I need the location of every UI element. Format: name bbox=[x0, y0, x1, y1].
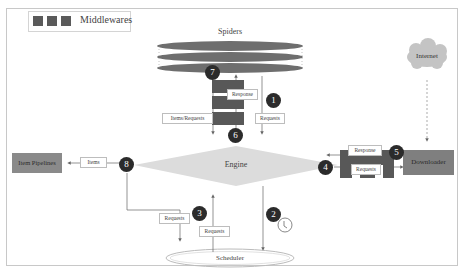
step-badge-6: 6 bbox=[228, 128, 243, 143]
downloader-label: Downloader bbox=[411, 158, 446, 166]
spiders-label: Spiders bbox=[200, 27, 260, 36]
edge-label-requests-dl: Requests bbox=[351, 164, 381, 175]
internet-label: Internet bbox=[407, 52, 447, 60]
spider-middleware-block bbox=[212, 112, 244, 125]
edge-label-requests: Requests bbox=[255, 113, 285, 124]
step-badge-1: 1 bbox=[266, 93, 281, 108]
item-pipelines-box: Item Pipelines bbox=[12, 153, 62, 173]
scheduler-label: Scheduler bbox=[200, 254, 260, 262]
edge-label-items: Items bbox=[80, 157, 107, 168]
step-badge-3: 3 bbox=[192, 206, 207, 221]
edge-label-requests-3: Requests bbox=[159, 213, 190, 224]
step-badge-5: 5 bbox=[389, 145, 404, 160]
engine-label: Engine bbox=[206, 160, 266, 169]
edge-label-response-dl: Response bbox=[348, 145, 382, 156]
downloader-box: Downloader bbox=[403, 150, 454, 175]
step-badge-8: 8 bbox=[119, 157, 134, 172]
step-badge-4: 4 bbox=[318, 160, 333, 175]
item-pipelines-label: Item Pipelines bbox=[18, 159, 55, 166]
edge-label-response: Response bbox=[227, 89, 258, 100]
step-badge-7: 7 bbox=[205, 65, 220, 80]
edge-label-items-requests: Items/Requests bbox=[162, 113, 213, 124]
clock-icon bbox=[278, 218, 292, 232]
edge-label-requests-sched: Requests bbox=[199, 226, 230, 237]
